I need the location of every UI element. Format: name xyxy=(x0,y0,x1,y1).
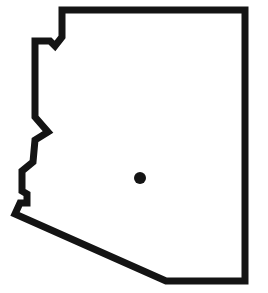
state-map xyxy=(0,0,268,293)
map-container: Arizona state outline xyxy=(0,0,268,293)
location-marker-dot xyxy=(134,172,146,184)
state-outline xyxy=(15,10,245,281)
